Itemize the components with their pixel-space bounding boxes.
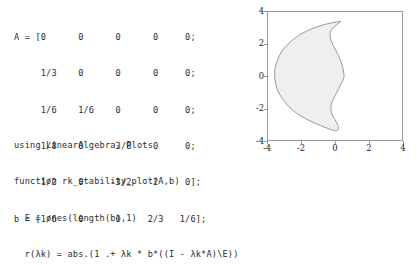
x-tick-label: 4 (394, 143, 412, 153)
x-tick-label: -4 (258, 143, 276, 153)
y-tick-label: 4 (248, 6, 264, 16)
code-line: 1/3 0 0 0 0; (14, 67, 206, 79)
y-tick-mark (264, 11, 267, 12)
y-tick-label: -2 (248, 103, 264, 113)
x-tick-mark (403, 141, 404, 144)
code-line: A = [0 0 0 0 0; (14, 31, 206, 43)
code-line: r(λk) = abs.(1 .+ λk * b*((I - λk*A)\E)) (14, 248, 260, 260)
code-line: using LinearAlgebra, Plots (14, 139, 260, 151)
code-line: E = ones(length(b),1) (14, 212, 260, 224)
stability-region-plot: 4 2 0 -2 -4 -4 -2 0 2 4 (250, 0, 417, 265)
stability-plot-program-code: using LinearAlgebra, Plots function rk_s… (14, 115, 260, 265)
plot-frame (267, 11, 403, 141)
y-tick-mark (264, 44, 267, 45)
contour-plot-canvas (268, 12, 402, 140)
code-listing-panel: A = [0 0 0 0 0; 1/3 0 0 0 0; 1/6 1/6 0 0… (0, 0, 258, 265)
y-tick-mark (264, 76, 267, 77)
x-tick-label: 2 (360, 143, 378, 153)
y-tick-mark (264, 109, 267, 110)
code-line: function rk_stability_plot(A,b) (14, 175, 260, 187)
x-tick-mark (335, 141, 336, 144)
screenshot-root: A = [0 0 0 0 0; 1/3 0 0 0 0; 1/6 1/6 0 0… (0, 0, 417, 265)
x-tick-label: -2 (292, 143, 310, 153)
x-tick-label: 0 (326, 143, 344, 153)
x-tick-mark (267, 141, 268, 144)
y-tick-label: 2 (248, 38, 264, 48)
x-tick-mark (369, 141, 370, 144)
y-tick-label: 0 (248, 71, 264, 81)
stability-region-contour (275, 21, 345, 131)
x-tick-mark (301, 141, 302, 144)
